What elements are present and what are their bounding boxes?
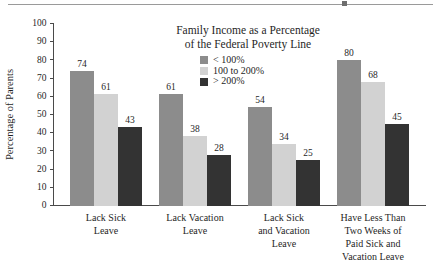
y-axis-tick-label: 60 — [37, 91, 47, 101]
grouped-bar-chart: 0102030405060708090100Percentage of Pare… — [0, 0, 441, 273]
bar — [385, 124, 409, 206]
page-separator-rule — [8, 4, 433, 5]
y-axis-title: Percentage of Parents — [4, 69, 15, 160]
chart-figure: 0102030405060708090100Percentage of Pare… — [0, 0, 441, 273]
legend-swatch — [200, 78, 208, 86]
x-axis-category-label: Lack Sick — [264, 212, 304, 223]
legend-label: > 200% — [213, 75, 244, 86]
x-axis-category-label: Leave — [183, 225, 208, 236]
y-axis-tick-label: 0 — [42, 200, 47, 210]
page-separator-marker — [342, 1, 347, 6]
x-axis-category-label: Two Weeks of — [344, 225, 402, 236]
y-axis-tick-label: 80 — [37, 55, 47, 65]
x-axis-category-label: Lack Vacation — [166, 212, 223, 223]
y-axis-tick-label: 50 — [37, 109, 47, 119]
x-axis-category-label: Paid Sick and — [346, 238, 401, 249]
legend-title-line: of the Federal Poverty Line — [185, 38, 311, 51]
bar-value-label: 80 — [344, 48, 354, 58]
y-axis-tick-label: 10 — [37, 182, 47, 192]
bar — [337, 60, 361, 206]
bar-value-label: 38 — [190, 124, 200, 134]
y-axis-tick-label: 70 — [37, 73, 47, 83]
x-axis-category-label: and Vacation — [258, 225, 310, 236]
bar-value-label: 25 — [303, 148, 313, 158]
x-axis-category-label: Vacation Leave — [342, 251, 404, 262]
bar-value-label: 74 — [77, 59, 87, 69]
bar-value-label: 54 — [255, 95, 265, 105]
bar — [94, 94, 118, 205]
legend-label: < 100% — [213, 54, 244, 65]
bar-value-label: 61 — [166, 82, 176, 92]
bar-value-label: 34 — [279, 132, 289, 142]
y-axis-tick-label: 20 — [37, 164, 47, 174]
bar — [70, 71, 94, 206]
bar-value-label: 45 — [392, 112, 402, 122]
bar — [361, 82, 385, 206]
legend-swatch — [200, 67, 208, 75]
legend-swatch — [200, 56, 208, 64]
legend-label: 100 to 200% — [213, 65, 264, 76]
y-axis-tick-label: 30 — [37, 146, 47, 156]
bar — [296, 160, 320, 206]
x-axis-category-label: Leave — [272, 238, 297, 249]
y-axis-tick-label: 90 — [37, 36, 47, 46]
legend-title-line: Family Income as a Percentage — [176, 24, 320, 37]
bar — [272, 144, 296, 206]
y-axis-tick-label: 40 — [37, 127, 47, 137]
bar — [248, 107, 272, 205]
bar-value-label: 68 — [368, 70, 378, 80]
y-axis-tick-label: 100 — [32, 18, 47, 28]
x-axis-category-label: Leave — [94, 225, 119, 236]
bar — [118, 127, 142, 205]
bar-value-label: 61 — [101, 82, 111, 92]
bar-value-label: 43 — [125, 115, 135, 125]
bar — [207, 155, 231, 206]
bar — [183, 136, 207, 205]
bar — [159, 94, 183, 205]
bar-value-label: 28 — [214, 143, 224, 153]
x-axis-category-label: Lack Sick — [86, 212, 126, 223]
x-axis-category-label: Have Less Than — [341, 212, 406, 223]
